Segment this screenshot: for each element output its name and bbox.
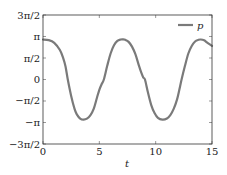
x-tick-label: 10 xyxy=(149,146,162,157)
y-tick-label: π xyxy=(33,31,40,42)
x-axis-label: t xyxy=(125,158,130,169)
y-tick-label: 3π/2 xyxy=(17,10,40,21)
y-tick-label: −π xyxy=(25,117,40,128)
legend: p xyxy=(178,20,204,31)
legend-label-p: p xyxy=(197,20,204,31)
series-line-p xyxy=(43,39,212,119)
x-tick-label: 5 xyxy=(96,146,102,157)
x-axis-ticks: 051015 xyxy=(40,15,219,157)
x-tick-label: 0 xyxy=(40,146,46,157)
y-tick-label: π/2 xyxy=(24,53,40,64)
line-chart: 3π/2ππ/20−π/2−π−3π/2 051015 t p xyxy=(0,0,227,175)
x-tick-label: 15 xyxy=(206,146,219,157)
y-tick-label: −π/2 xyxy=(15,95,40,106)
y-tick-label: 0 xyxy=(34,74,40,85)
y-tick-label: −3π/2 xyxy=(9,139,40,150)
